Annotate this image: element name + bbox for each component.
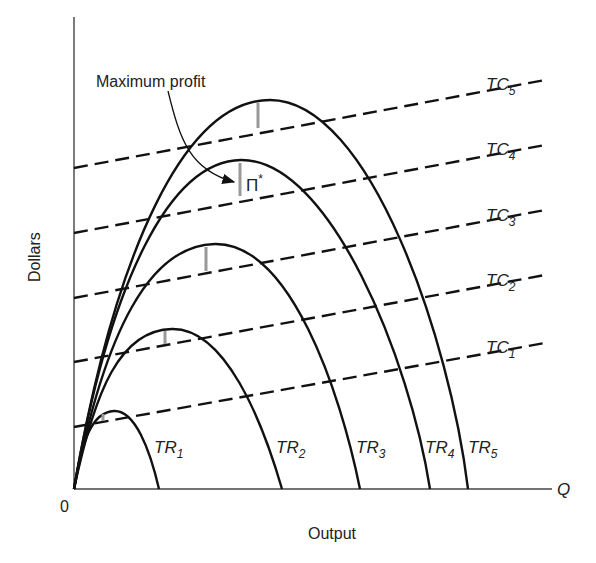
tr4-label: TR4 [425, 438, 455, 461]
tr1-label: TR1 [154, 438, 183, 461]
tc4-label: TC4 [486, 140, 516, 163]
total-cost-lines [74, 80, 545, 427]
tc4-line [74, 145, 545, 233]
tc5-label: TC5 [486, 75, 516, 98]
profit-maximization-diagram: Maximum profit Π* TC5 TC4 TC3 TC2 TC1 TR… [0, 0, 596, 563]
tc5-line [74, 80, 545, 168]
q-axis-symbol: Q [557, 480, 570, 499]
origin-label: 0 [60, 498, 69, 515]
max-profit-label: Maximum profit [96, 73, 206, 90]
tr3-curve [74, 244, 360, 489]
tc1-line [74, 343, 545, 427]
tr2-label: TR2 [276, 438, 306, 461]
tc-labels: TC5 TC4 TC3 TC2 TC1 [486, 75, 516, 361]
tc3-line [74, 210, 545, 298]
tr5-curve [74, 100, 468, 489]
tr3-label: TR3 [356, 438, 386, 461]
tr-labels: TR1 TR2 TR3 TR4 TR5 [154, 438, 498, 461]
x-axis-label: Output [308, 525, 357, 542]
tc2-label: TC2 [486, 271, 516, 294]
pi-star-label: Π* [246, 172, 263, 195]
tc3-label: TC3 [486, 206, 516, 229]
tr5-label: TR5 [468, 438, 498, 461]
total-revenue-curves [74, 100, 468, 489]
tc1-label: TC1 [486, 338, 515, 361]
y-axis-label: Dollars [26, 232, 43, 282]
